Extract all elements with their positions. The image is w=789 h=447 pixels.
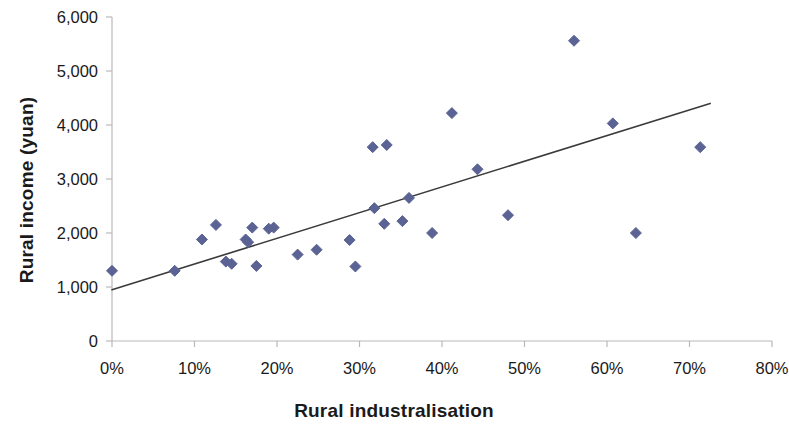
data-point	[292, 249, 303, 260]
x-tick-label: 10%	[178, 359, 211, 378]
data-point	[472, 164, 483, 175]
data-point	[107, 265, 118, 276]
x-tick-label: 60%	[590, 359, 623, 378]
axis-lines	[112, 17, 772, 341]
data-point	[196, 234, 207, 245]
data-point	[379, 218, 390, 229]
data-point	[251, 260, 262, 271]
x-tick-label: 70%	[673, 359, 706, 378]
data-point	[630, 228, 641, 239]
x-tick-label: 0%	[100, 359, 124, 378]
x-tick-label: 50%	[508, 359, 541, 378]
data-point	[569, 35, 580, 46]
data-point	[607, 118, 618, 129]
data-point	[446, 108, 457, 119]
x-tick-label: 30%	[343, 359, 376, 378]
data-point	[695, 142, 706, 153]
y-axis-title: Rural income (yuan)	[10, 10, 44, 370]
x-tick-label: 20%	[260, 359, 293, 378]
data-point	[367, 142, 378, 153]
data-point	[350, 261, 361, 272]
x-axis-title: Rural industralisation	[0, 400, 788, 422]
data-point	[397, 216, 408, 227]
data-point	[247, 222, 258, 233]
data-markers	[107, 35, 706, 276]
data-point	[169, 265, 180, 276]
data-point	[311, 244, 322, 255]
x-tick-label: 40%	[425, 359, 458, 378]
data-point	[503, 210, 514, 221]
data-point	[210, 219, 221, 230]
data-point	[427, 228, 438, 239]
x-tick-label: 80%	[755, 359, 788, 378]
data-point	[369, 203, 380, 214]
data-point	[344, 235, 355, 246]
tick-marks	[106, 17, 772, 347]
data-point	[404, 192, 415, 203]
data-point	[381, 139, 392, 150]
